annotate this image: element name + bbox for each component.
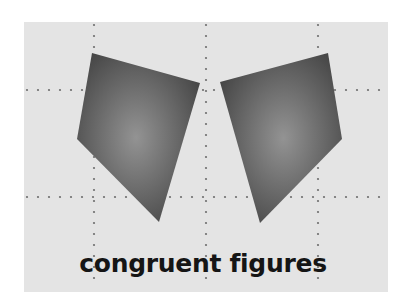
grid-dot-vertical-2 xyxy=(205,222,207,224)
grid-dot-vertical-2 xyxy=(205,35,207,37)
grid-dot-vertical-2 xyxy=(205,123,207,125)
grid-dot-vertical-1 xyxy=(93,233,95,235)
grid-dot-vertical-2 xyxy=(205,90,207,92)
grid-dot-horizontal-2 xyxy=(356,196,358,198)
grid-dot-horizontal-2 xyxy=(180,196,182,198)
grid-dot-horizontal-1 xyxy=(70,89,72,91)
grid-dot-horizontal-2 xyxy=(70,196,72,198)
grid-dot-vertical-2 xyxy=(205,57,207,59)
grid-dot-vertical-2 xyxy=(205,189,207,191)
grid-dot-horizontal-2 xyxy=(312,196,314,198)
grid-dot-vertical-2 xyxy=(205,178,207,180)
grid-dot-vertical-1 xyxy=(93,24,95,26)
grid-dot-horizontal-1 xyxy=(213,89,215,91)
grid-dot-vertical-2 xyxy=(205,68,207,70)
grid-dot-horizontal-2 xyxy=(191,196,193,198)
grid-dot-vertical-2 xyxy=(205,167,207,169)
grid-dot-horizontal-2 xyxy=(125,196,127,198)
grid-dot-vertical-1 xyxy=(93,167,95,169)
congruent-figures-diagram: congruent figures xyxy=(0,0,406,307)
grid-dot-horizontal-1 xyxy=(48,89,50,91)
grid-dot-vertical-3 xyxy=(317,24,319,26)
grid-dot-vertical-1 xyxy=(93,222,95,224)
grid-dot-horizontal-2 xyxy=(378,196,380,198)
grid-dot-vertical-2 xyxy=(205,112,207,114)
grid-dot-horizontal-2 xyxy=(323,196,325,198)
grid-dot-vertical-2 xyxy=(205,211,207,213)
grid-dot-horizontal-1 xyxy=(26,89,28,91)
grid-dot-horizontal-1 xyxy=(356,89,358,91)
grid-dot-vertical-3 xyxy=(317,222,319,224)
grid-dot-vertical-2 xyxy=(205,79,207,81)
grid-dot-vertical-1 xyxy=(93,211,95,213)
grid-dot-vertical-2 xyxy=(205,233,207,235)
grid-dot-horizontal-2 xyxy=(345,196,347,198)
grid-dot-vertical-2 xyxy=(205,46,207,48)
grid-dot-vertical-2 xyxy=(205,101,207,103)
grid-dot-horizontal-2 xyxy=(169,196,171,198)
grid-dot-horizontal-2 xyxy=(114,196,116,198)
grid-dot-horizontal-1 xyxy=(367,89,369,91)
grid-dot-vertical-3 xyxy=(317,200,319,202)
grid-dot-horizontal-1 xyxy=(59,89,61,91)
grid-dot-horizontal-2 xyxy=(37,196,39,198)
grid-dot-vertical-1 xyxy=(93,178,95,180)
grid-dot-horizontal-2 xyxy=(224,196,226,198)
grid-dot-vertical-2 xyxy=(205,134,207,136)
grid-dot-vertical-1 xyxy=(93,189,95,191)
grid-dot-horizontal-2 xyxy=(367,196,369,198)
grid-dot-vertical-2 xyxy=(205,145,207,147)
grid-dot-vertical-2 xyxy=(205,24,207,26)
grid-dot-horizontal-2 xyxy=(103,196,105,198)
grid-dot-horizontal-2 xyxy=(202,196,204,198)
grid-dot-vertical-1 xyxy=(93,200,95,202)
grid-dot-vertical-3 xyxy=(317,233,319,235)
grid-dot-vertical-3 xyxy=(317,178,319,180)
grid-dot-vertical-2 xyxy=(205,156,207,158)
grid-dot-horizontal-1 xyxy=(81,89,83,91)
grid-dot-vertical-3 xyxy=(317,189,319,191)
grid-dot-horizontal-2 xyxy=(92,196,94,198)
grid-dot-horizontal-1 xyxy=(202,89,204,91)
grid-dot-vertical-3 xyxy=(317,211,319,213)
grid-dot-horizontal-2 xyxy=(290,196,292,198)
grid-dot-horizontal-2 xyxy=(213,196,215,198)
grid-dot-vertical-3 xyxy=(317,46,319,48)
grid-dot-vertical-3 xyxy=(317,167,319,169)
grid-dot-horizontal-2 xyxy=(26,196,28,198)
grid-dot-vertical-3 xyxy=(317,35,319,37)
grid-dot-horizontal-2 xyxy=(48,196,50,198)
grid-dot-horizontal-2 xyxy=(301,196,303,198)
grid-dot-vertical-2 xyxy=(205,200,207,202)
grid-dot-vertical-3 xyxy=(317,244,319,246)
grid-dot-horizontal-2 xyxy=(235,196,237,198)
grid-dot-vertical-1 xyxy=(93,35,95,37)
grid-dot-vertical-2 xyxy=(205,244,207,246)
grid-dot-vertical-1 xyxy=(93,244,95,246)
grid-dot-horizontal-1 xyxy=(334,89,336,91)
grid-dot-horizontal-1 xyxy=(378,89,380,91)
grid-dot-horizontal-2 xyxy=(81,196,83,198)
grid-dot-horizontal-1 xyxy=(37,89,39,91)
grid-dot-horizontal-2 xyxy=(334,196,336,198)
grid-dot-vertical-1 xyxy=(93,46,95,48)
grid-dot-horizontal-1 xyxy=(345,89,347,91)
grid-dot-horizontal-2 xyxy=(59,196,61,198)
caption-title: congruent figures xyxy=(79,249,326,278)
grid-dot-horizontal-2 xyxy=(246,196,248,198)
